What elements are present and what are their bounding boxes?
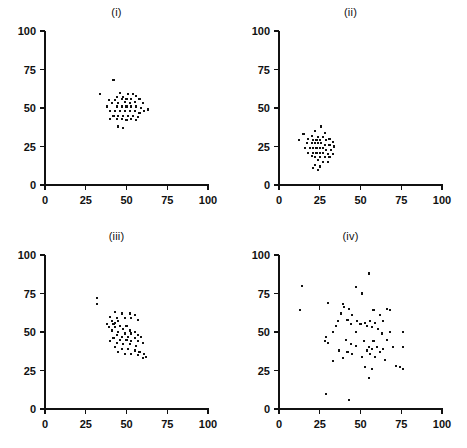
data-point	[109, 118, 111, 120]
data-point	[122, 127, 124, 129]
y-tick-label: 100	[252, 25, 270, 37]
data-point	[112, 337, 114, 339]
data-point	[117, 102, 119, 104]
data-point	[377, 328, 379, 330]
data-point	[121, 105, 123, 107]
data-point	[124, 101, 126, 103]
data-point	[137, 354, 139, 356]
data-point	[122, 328, 124, 330]
data-point	[343, 306, 345, 308]
data-point	[327, 161, 329, 163]
data-point	[124, 353, 126, 355]
data-point	[317, 169, 319, 171]
data-point	[106, 323, 108, 325]
data-point	[366, 349, 368, 351]
data-point	[325, 149, 327, 151]
y-tick-label: 0	[30, 403, 36, 415]
data-point	[342, 357, 344, 359]
data-point	[335, 325, 337, 327]
data-point	[317, 142, 319, 144]
y-tick-label: 75	[258, 288, 270, 300]
y-tick-label: 50	[258, 326, 270, 338]
x-tick-label: 0	[276, 194, 282, 206]
data-point	[374, 356, 376, 358]
data-point	[129, 343, 131, 345]
data-point	[121, 348, 123, 350]
data-point	[368, 272, 370, 274]
data-point	[306, 142, 308, 144]
data-point	[125, 119, 127, 121]
data-point	[132, 93, 134, 95]
data-point	[299, 309, 301, 311]
data-point	[116, 342, 118, 344]
data-point	[340, 312, 342, 314]
plot-area-ii: 02550751000255075100	[234, 0, 467, 224]
data-point	[134, 337, 136, 339]
data-point	[119, 92, 121, 94]
data-point	[399, 366, 401, 368]
data-point	[125, 105, 127, 107]
data-point	[119, 325, 121, 327]
y-tick-label: 25	[24, 365, 36, 377]
data-point	[338, 349, 340, 351]
y-tick-label: 100	[18, 249, 36, 261]
data-point	[134, 110, 136, 112]
data-point	[311, 142, 313, 144]
data-point	[325, 336, 327, 338]
data-point	[116, 334, 118, 336]
data-point	[135, 345, 137, 347]
data-point	[402, 346, 404, 348]
data-point	[346, 351, 348, 353]
data-point	[121, 98, 123, 100]
y-tick-label: 100	[252, 249, 270, 261]
y-tick-label: 100	[18, 25, 36, 37]
data-point	[112, 323, 114, 325]
data-point	[130, 340, 132, 342]
data-point	[327, 342, 329, 344]
x-tick-label: 75	[161, 194, 173, 206]
data-point	[125, 98, 127, 100]
data-point	[381, 332, 383, 334]
panel-iii: (iii) 02550751000255075100	[0, 224, 233, 448]
y-tick-label: 0	[30, 179, 36, 191]
data-point	[129, 312, 131, 314]
data-point	[311, 135, 313, 137]
data-point	[369, 320, 371, 322]
data-point	[304, 147, 306, 149]
x-tick-label: 25	[314, 194, 326, 206]
data-point	[319, 152, 321, 154]
panel-ii: (ii) 02550751000255075100	[234, 0, 467, 224]
y-tick-label: 25	[258, 365, 270, 377]
data-point	[374, 322, 376, 324]
data-point	[96, 297, 98, 299]
data-point	[137, 319, 139, 321]
data-point	[346, 319, 348, 321]
data-point	[371, 326, 373, 328]
data-point	[130, 317, 132, 319]
data-point	[109, 316, 111, 318]
data-point	[114, 311, 116, 313]
x-tick-label: 75	[161, 418, 173, 430]
data-point	[368, 377, 370, 379]
data-point	[350, 343, 352, 345]
data-point	[112, 115, 114, 117]
data-point	[119, 110, 121, 112]
data-point	[332, 360, 334, 362]
data-point	[356, 320, 358, 322]
data-point	[117, 125, 119, 127]
data-point	[134, 331, 136, 333]
data-point	[309, 147, 311, 149]
data-point	[348, 399, 350, 401]
data-point	[328, 138, 330, 140]
x-tick-label: 50	[120, 194, 132, 206]
data-point	[121, 312, 123, 314]
data-point	[325, 139, 327, 141]
data-point	[127, 115, 129, 117]
data-point	[371, 348, 373, 350]
data-point	[124, 110, 126, 112]
data-point	[324, 144, 326, 146]
x-tick-label: 50	[120, 418, 132, 430]
data-point	[130, 105, 132, 107]
data-point	[314, 130, 316, 132]
panel-iv: (iv) 02550751000255075100	[234, 224, 467, 448]
